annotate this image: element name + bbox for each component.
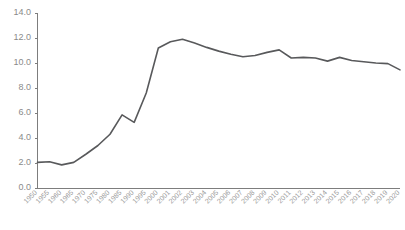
y-tick-label: 14.0: [13, 7, 31, 17]
y-tick-label: 0.0: [18, 182, 31, 192]
y-tick-label: 8.0: [18, 82, 31, 92]
y-tick-label: 2.0: [18, 157, 31, 167]
chart-canvas: 0.02.04.06.08.010.012.014.0 195019551960…: [0, 0, 405, 230]
line-chart: 0.02.04.06.08.010.012.014.0 195019551960…: [0, 0, 405, 230]
y-tick-label: 6.0: [18, 107, 31, 117]
y-tick-label: 10.0: [13, 57, 31, 67]
x-axis-tick-labels: 1950195519601965197019751980198519901995…: [22, 189, 401, 205]
y-axis-tick-labels: 0.02.04.06.08.010.012.014.0: [13, 7, 31, 192]
y-tick-label: 4.0: [18, 132, 31, 142]
x-tick-label: 2020: [385, 189, 401, 205]
data-series-line: [38, 39, 401, 165]
y-tick-label: 12.0: [13, 32, 31, 42]
x-tick-label: 2010: [264, 189, 280, 205]
